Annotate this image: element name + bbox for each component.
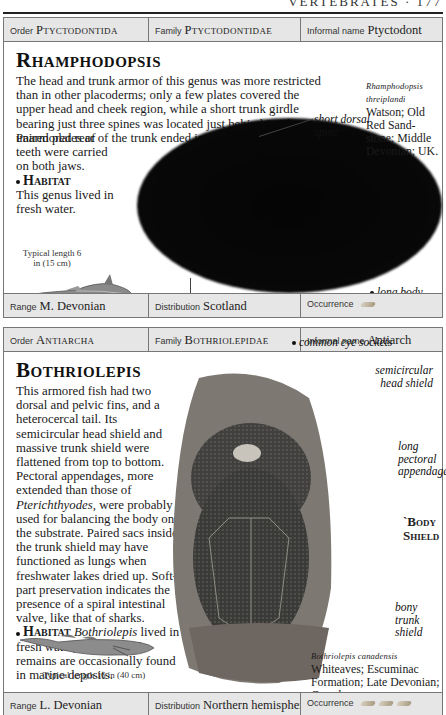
label-text: common eye sockets — [299, 336, 392, 348]
range-bar: Range M. Devonian Distribution Scotland … — [4, 293, 442, 317]
label-semicircular-head-shield: semicircular head shield — [363, 364, 433, 389]
family-label: Family — [155, 336, 182, 346]
label-text: short dorsal spine — [314, 113, 370, 138]
range-label: Range — [10, 701, 37, 711]
occurrence-fossil-icon — [378, 701, 394, 706]
occurrence-label: Occurrence — [307, 299, 354, 309]
informal-name-label: Informal name — [307, 26, 365, 36]
label-text: long pectoral appendage — [398, 440, 446, 477]
informal-name-value: Ptyctodont — [368, 23, 422, 38]
range-label: Range — [10, 302, 37, 312]
range-value: L. Devonian — [40, 698, 102, 713]
specimen-caption: Rhamphodopsis threiplandi Watson; Old Re… — [366, 80, 442, 158]
entry-rhamphodopsis: Order Ptyctodontida Family Ptyctodontida… — [3, 17, 443, 318]
range-bar: Range L. Devonian Distribution Northern … — [4, 692, 442, 715]
entry-title: Rhamphodopsis — [16, 48, 161, 73]
informal-name-cell: Informal name Ptyctodont — [301, 18, 442, 41]
range-cell: Range M. Devonian — [4, 294, 149, 317]
bullet-icon — [16, 180, 20, 184]
label-long-pectoral-appendage: long pectoral appendage — [398, 440, 446, 478]
label-common-eye-sockets: common eye sockets — [292, 336, 392, 349]
distribution-value: Scotland — [203, 299, 247, 314]
running-head-text: VERTEBRATES · 177 — [288, 0, 442, 10]
range-cell: Range L. Devonian — [4, 693, 149, 715]
specimen-name: Rhamphodopsis threiplandi — [366, 80, 442, 106]
occurrence-cell: Occurrence — [301, 693, 442, 715]
order-cell: Order Ptyctodontida — [4, 18, 149, 41]
family-label: Family — [155, 26, 182, 36]
family-cell: Family Ptyctodontidae — [149, 18, 301, 41]
family-value: Ptyctodontidae — [185, 23, 272, 38]
classification-bar: Order Ptyctodontida Family Ptyctodontida… — [4, 18, 442, 42]
order-value: Antiarcha — [36, 333, 94, 348]
fossil-photo — [169, 368, 339, 688]
order-label: Order — [10, 336, 33, 346]
entry-bothriolepis: Order Antiarcha Family Bothriolepidae In… — [3, 327, 443, 715]
order-cell: Order Antiarcha — [4, 328, 149, 351]
distribution-value: Northern hemisphere — [203, 698, 301, 713]
order-value: Ptyctodontida — [36, 23, 118, 38]
header-rule — [3, 12, 443, 14]
description-italic: Pterichthyodes — [16, 498, 93, 512]
family-cell: Family Bothriolepidae — [149, 328, 301, 351]
habitat-text: This genus lived in fresh water. — [16, 188, 114, 216]
occurrence-fossil-icon — [360, 302, 376, 307]
bullet-icon — [292, 341, 296, 345]
distribution-label: Distribution — [155, 701, 200, 711]
label-text: bony trunk shield — [395, 601, 422, 638]
occurrence-label: Occurrence — [307, 698, 354, 708]
family-value: Bothriolepidae — [185, 333, 269, 348]
range-value: M. Devonian — [40, 299, 106, 314]
fish-illustration — [18, 628, 158, 660]
description-text-a: This armored fish had two dorsal and pel… — [16, 384, 164, 497]
running-head: VERTEBRATES · 177 — [0, 0, 446, 12]
description-text-b: , were probably used for balancing the b… — [16, 498, 178, 626]
typical-length: Typical length 16 in (40 cm) — [34, 670, 154, 680]
label-bony-trunk-shield: bony trunk shield — [395, 601, 435, 639]
description-teeth-text: Paired plates of teeth were carried on b… — [16, 131, 108, 173]
distribution-cell: Distribution Northern hemisphere — [149, 693, 301, 715]
typical-length: Typical length 6 in (15 cm) — [22, 248, 82, 268]
label-short-dorsal-spine: short dorsal spine — [314, 113, 374, 138]
order-label: Order — [10, 26, 33, 36]
occurrence-fossil-icon — [360, 701, 376, 706]
occurrence-fossil-icon — [396, 701, 412, 706]
distribution-cell: Distribution Scotland — [149, 294, 301, 317]
specimen-details: Watson; Old Red Sand-stone; Middle Devon… — [366, 105, 438, 158]
occurrence-cell: Occurrence — [301, 294, 442, 317]
distribution-label: Distribution — [155, 302, 200, 312]
entry-title: Bothriolepis — [16, 358, 141, 383]
body-shield-heading: `Body Shield — [403, 515, 443, 543]
description-teeth: Paired plates of teeth were carried on b… — [16, 131, 121, 216]
habitat-label: Habitat — [23, 173, 71, 188]
label-text: semicircular head shield — [375, 364, 433, 389]
